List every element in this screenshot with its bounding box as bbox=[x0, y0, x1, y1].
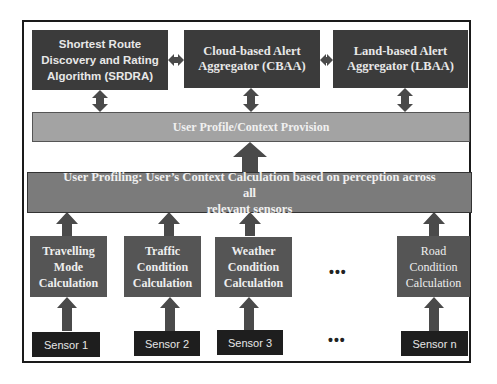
double-arrow-srdra-provision-icon bbox=[92, 90, 108, 112]
double-arrow-srdra-cbaa-icon bbox=[168, 54, 184, 66]
lbaa-box: Land-based Alert Aggregator (LBAA) bbox=[333, 30, 468, 88]
sensor-3-box: Sensor 3 bbox=[217, 330, 283, 355]
sensor-2-box: Sensor 2 bbox=[134, 331, 200, 356]
double-arrow-cbaa-provision-icon bbox=[243, 88, 259, 112]
lbaa-label-line-2: Aggregator (LBAA) bbox=[347, 59, 454, 74]
up-arrow-sensor3-icon bbox=[239, 297, 259, 331]
weather-line-1: Weather bbox=[232, 243, 276, 259]
up-arrow-sensorn-icon bbox=[424, 297, 444, 331]
traffic-condition-calculation-box: Traffic Condition Calculation bbox=[124, 236, 201, 297]
traffic-line-1: Traffic bbox=[145, 243, 180, 259]
sensor-3-label: Sensor 3 bbox=[228, 337, 272, 349]
double-arrow-cbaa-lbaa-icon bbox=[320, 54, 333, 66]
road-condition-calculation-box: Road Condition Calculation bbox=[397, 236, 470, 297]
road-line-1: Road bbox=[421, 243, 446, 259]
sensor-2-label: Sensor 2 bbox=[145, 338, 189, 350]
travelling-line-2: Mode bbox=[54, 259, 83, 275]
user-profile-context-provision-bar: User Profile/Context Provision bbox=[32, 112, 470, 142]
up-arrow-travelling-icon bbox=[56, 212, 78, 236]
sensor-1-box: Sensor 1 bbox=[32, 332, 100, 357]
lbaa-label-line-1: Land-based Alert bbox=[354, 44, 447, 59]
weather-condition-calculation-box: Weather Condition Calculation bbox=[215, 237, 292, 297]
double-arrow-lbaa-provision-icon bbox=[397, 88, 413, 112]
provision-label: User Profile/Context Provision bbox=[173, 120, 330, 135]
traffic-line-3: Calculation bbox=[133, 275, 192, 291]
srdra-label-line-1: Shortest Route bbox=[59, 36, 141, 52]
profiling-label-line-1: User Profiling: User’s Context Calculati… bbox=[58, 169, 441, 201]
srdra-box: Shortest Route Discovery and Rating Algo… bbox=[32, 30, 168, 90]
srdra-label-line-3: Algorithm (SRDRA) bbox=[47, 68, 153, 84]
sensor-n-box: Sensor n bbox=[401, 331, 468, 356]
sensor-ellipsis: ••• bbox=[328, 332, 346, 348]
travelling-mode-calculation-box: Travelling Mode Calculation bbox=[30, 236, 107, 297]
sensor-n-label: Sensor n bbox=[412, 338, 456, 350]
profiling-label-line-2: relevant sensors bbox=[207, 201, 293, 217]
up-arrow-road-icon bbox=[423, 212, 445, 236]
up-arrow-sensor1-icon bbox=[57, 297, 77, 331]
cbaa-box: Cloud-based Alert Aggregator (CBAA) bbox=[184, 30, 320, 88]
srdra-label-line-2: Discovery and Rating bbox=[41, 52, 159, 68]
sensor-1-label: Sensor 1 bbox=[44, 339, 88, 351]
cbaa-label-line-1: Cloud-based Alert bbox=[203, 44, 301, 59]
weather-line-3: Calculation bbox=[224, 275, 283, 291]
travelling-line-3: Calculation bbox=[39, 275, 98, 291]
weather-line-2: Condition bbox=[228, 259, 279, 275]
travelling-line-1: Travelling bbox=[42, 243, 94, 259]
calc-ellipsis: ••• bbox=[329, 264, 347, 280]
up-arrow-sensor2-icon bbox=[160, 297, 180, 331]
user-profiling-bar: User Profiling: User’s Context Calculati… bbox=[27, 172, 472, 213]
up-arrow-traffic-icon bbox=[158, 212, 180, 236]
cbaa-label-line-2: Aggregator (CBAA) bbox=[198, 59, 306, 74]
road-line-3: Calculation bbox=[406, 275, 461, 291]
traffic-line-2: Condition bbox=[137, 259, 188, 275]
up-arrow-profiling-to-provision-icon bbox=[233, 142, 267, 172]
road-line-2: Condition bbox=[409, 259, 457, 275]
